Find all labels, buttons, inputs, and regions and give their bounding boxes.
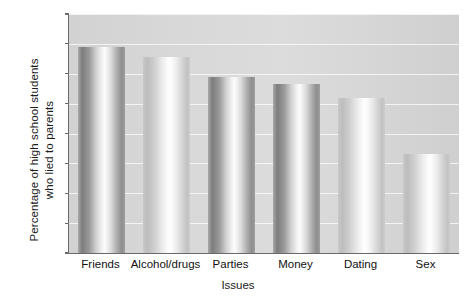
y-tick-mark <box>65 103 70 104</box>
gridline <box>69 193 459 194</box>
bar <box>403 154 450 253</box>
x-axis-title: Issues <box>0 279 476 291</box>
y-tick-mark <box>65 193 70 194</box>
bar <box>273 84 320 253</box>
y-tick-mark <box>65 133 70 134</box>
bar <box>143 57 190 253</box>
x-tick-label: Parties <box>213 258 249 270</box>
gridline <box>69 134 459 135</box>
y-tick-mark <box>65 13 70 14</box>
y-axis-title: Percentage of high school students who l… <box>25 30 59 270</box>
y-tick-mark <box>65 73 70 74</box>
gridline <box>69 163 459 164</box>
x-tick-label: Dating <box>344 258 377 270</box>
bar <box>208 77 255 253</box>
y-tick-mark <box>65 223 70 224</box>
y-tick-mark <box>65 163 70 164</box>
y-axis-title-line-1: Percentage of high school students <box>27 58 42 241</box>
gridline <box>69 223 459 224</box>
x-tick-label: Alcohol/drugs <box>131 258 201 270</box>
x-tick-label: Money <box>278 258 313 270</box>
x-tick-label: Sex <box>416 258 436 270</box>
gridline <box>69 44 459 45</box>
gridline <box>69 14 459 15</box>
bar <box>338 98 385 253</box>
y-tick-mark <box>65 43 70 44</box>
gridline <box>69 104 459 105</box>
plot-area <box>68 14 459 254</box>
bar-chart-figure: Percentage of high school students who l… <box>0 0 476 300</box>
y-tick-mark <box>65 252 70 253</box>
y-axis-title-line-2: who lied to parents <box>42 101 57 199</box>
x-tick-label: Friends <box>81 258 119 270</box>
gridline <box>69 74 459 75</box>
bar <box>78 47 125 253</box>
